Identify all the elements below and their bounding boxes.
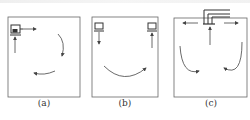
flow-arrow-bottom (34, 71, 55, 74)
panel-a (8, 17, 80, 97)
panel-b (92, 17, 158, 97)
panel-a-label: (a) (29, 98, 59, 108)
unit-icon-left (94, 23, 104, 31)
unit-icon-right (147, 23, 157, 31)
panel-c (174, 10, 247, 97)
vortex-left (180, 46, 199, 72)
panel-c-label: (c) (196, 98, 226, 108)
panel-b-label: (b) (110, 98, 140, 108)
ceiling-duct (203, 10, 230, 24)
flow-arrow-right (58, 34, 63, 56)
flow-arrow (104, 66, 146, 77)
unit-icon (10, 25, 23, 35)
vortex-right (224, 42, 242, 70)
